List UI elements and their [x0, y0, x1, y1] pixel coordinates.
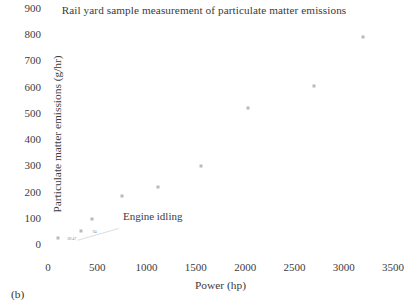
data-point-label: 94	[93, 229, 97, 234]
x-tick-label: 1000	[136, 261, 158, 273]
data-point	[199, 165, 202, 168]
data-point	[157, 186, 160, 189]
y-tick-label: 300	[25, 159, 42, 171]
data-point	[91, 218, 94, 221]
annotation-text: Engine idling	[123, 210, 183, 222]
x-tick-label: 1500	[185, 261, 207, 273]
y-tick-label: 700	[25, 54, 42, 66]
y-tick-label: 900	[25, 2, 42, 14]
x-tick-label: 3000	[333, 261, 355, 273]
data-point	[313, 84, 316, 87]
y-tick-label: 100	[25, 212, 42, 224]
data-point	[120, 194, 123, 197]
y-tick-label: 600	[25, 81, 42, 93]
x-tick-label: 500	[89, 261, 106, 273]
data-point	[247, 107, 250, 110]
plot-area: Particulate matter emissions (g/hr) 0100…	[48, 20, 393, 256]
y-tick-label: 800	[25, 28, 42, 40]
data-point	[362, 36, 365, 39]
y-tick-label: 400	[25, 133, 42, 145]
figure-panel: Rail yard sample measurement of particul…	[0, 0, 408, 306]
data-point-label: 69.47	[67, 235, 76, 240]
x-tick-label: 2500	[283, 261, 305, 273]
data-point	[56, 236, 59, 239]
y-axis-title: Particulate matter emissions (g/hr)	[51, 0, 63, 274]
y-tick-label: 200	[25, 186, 42, 198]
x-axis-title: Power (hp)	[48, 279, 393, 291]
x-tick-label: 3500	[382, 261, 404, 273]
y-tick-label: 500	[25, 107, 42, 119]
y-tick-label: 0	[36, 238, 42, 250]
data-point	[79, 230, 82, 233]
x-tick-label: 0	[45, 261, 51, 273]
annotation-leader-line	[48, 20, 393, 256]
x-tick-label: 2000	[234, 261, 256, 273]
figure-caption: (b)	[11, 288, 24, 300]
